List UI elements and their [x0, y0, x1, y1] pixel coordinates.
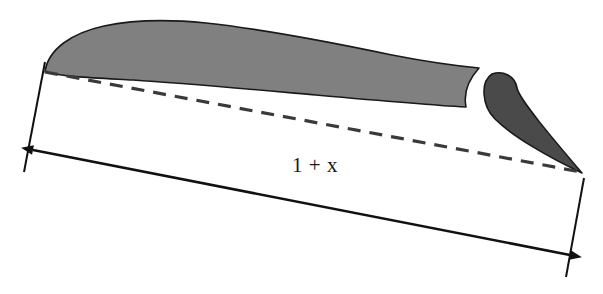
figure-container: 1 + x — [0, 0, 603, 294]
airfoil-flap-diagram: 1 + x — [0, 0, 603, 294]
dimension-label: 1 + x — [292, 153, 338, 177]
